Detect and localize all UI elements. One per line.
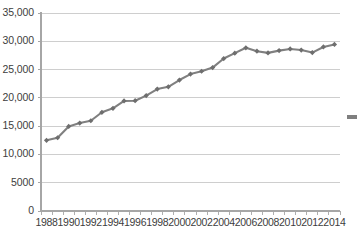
y-axis-tick-label: 0 (0, 205, 34, 216)
x-axis-tick-label: 2008 (256, 217, 280, 228)
y-axis-tick-label: 35,000 (0, 7, 34, 18)
legend-marker-icon (347, 115, 357, 119)
x-axis-tick-label: 1996 (123, 217, 147, 228)
plot-area (0, 0, 357, 242)
x-axis-tick-label: 2012 (300, 217, 324, 228)
data-point-marker (254, 49, 259, 54)
y-axis-tick-label: 20,000 (0, 92, 34, 103)
data-point-marker (288, 46, 293, 51)
y-axis-tick-label: 10,000 (0, 148, 34, 159)
series-markers (44, 42, 337, 143)
x-axis-tick-label: 2014 (322, 217, 346, 228)
data-point-marker (77, 120, 82, 125)
y-axis-tick-label: 25,000 (0, 64, 34, 75)
y-axis-tick-label: 5000 (0, 177, 34, 188)
x-axis-tick-label: 2000 (167, 217, 191, 228)
y-axis-tick-label: 15,000 (0, 120, 34, 131)
data-point-marker (299, 47, 304, 52)
x-axis-ticks (41, 211, 340, 215)
line-chart: 0500010,00015,00020,00025,00030,00035,00… (0, 0, 357, 242)
x-axis-tick-label: 1998 (145, 217, 169, 228)
x-axis-tick-label: 2004 (212, 217, 236, 228)
x-axis-tick-label: 2006 (234, 217, 258, 228)
x-axis-tick-label: 2010 (278, 217, 302, 228)
x-axis-tick-label: 1994 (101, 217, 125, 228)
x-axis-tick-label: 2002 (190, 217, 214, 228)
data-point-marker (332, 42, 337, 47)
gridlines (41, 13, 340, 211)
x-axis-tick-label: 1992 (79, 217, 103, 228)
data-point-marker (276, 48, 281, 53)
data-point-marker (265, 50, 270, 55)
y-axis-tick-label: 30,000 (0, 35, 34, 46)
data-point-marker (44, 138, 49, 143)
x-axis-tick-label: 1990 (57, 217, 81, 228)
x-axis-tick-label: 1988 (35, 217, 59, 228)
